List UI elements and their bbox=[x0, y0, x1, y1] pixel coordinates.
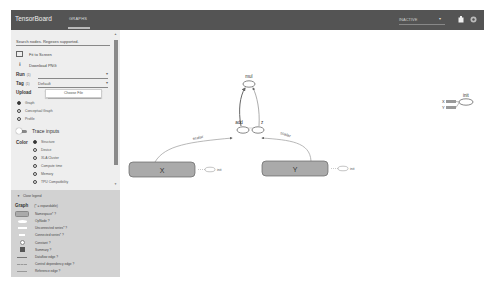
namespace-symbol-icon bbox=[15, 211, 29, 217]
edge-x-to-add bbox=[155, 138, 232, 162]
radio-unchecked-icon bbox=[17, 117, 21, 121]
legend-label: Unconnected series* ? bbox=[35, 226, 67, 230]
color-memory[interactable]: Memory bbox=[33, 172, 53, 176]
fit-to-screen-label: Fit to Screen bbox=[29, 52, 52, 57]
color-label: Color bbox=[16, 140, 28, 145]
dropdown-underline bbox=[399, 24, 445, 25]
chevron-down-icon: ▼ bbox=[17, 194, 20, 198]
download-icon: ⭳ bbox=[16, 61, 23, 69]
edge-z-to-mul bbox=[253, 88, 259, 126]
radio-unchecked-icon bbox=[33, 180, 37, 184]
radio-checked-icon bbox=[17, 101, 21, 105]
sidebar-scrollbar[interactable]: ▲ ▼ bbox=[114, 32, 118, 190]
color-tpu-compatibility[interactable]: TPU Compatibility bbox=[33, 180, 68, 184]
init-input-y-icon bbox=[446, 106, 456, 109]
radio-conceptual-graph[interactable]: Conceptual Graph bbox=[17, 109, 53, 113]
node-y-init-label: init bbox=[350, 167, 355, 171]
chevron-down-icon: ▾ bbox=[106, 81, 108, 85]
choose-file-button[interactable]: Choose File bbox=[45, 89, 102, 98]
color-xla-cluster[interactable]: XLA Cluster bbox=[33, 156, 59, 160]
trace-inputs-toggle[interactable] bbox=[16, 128, 27, 134]
active-tab-indicator bbox=[68, 27, 90, 29]
tab-graphs[interactable]: GRAPHS bbox=[69, 16, 87, 21]
legend-label: Connected series* ? bbox=[35, 233, 64, 237]
radio-label: TPU Compatibility bbox=[41, 180, 68, 184]
radio-label: Graph bbox=[25, 101, 34, 105]
node-x-init[interactable] bbox=[205, 167, 215, 172]
node-mul-label: mul bbox=[245, 74, 252, 79]
tensorboard-app: TensorBoard GRAPHS INACTIVE ▾ Search nod… bbox=[11, 10, 484, 277]
download-png-button[interactable]: ⭳ Download PNG bbox=[16, 61, 57, 69]
color-compute-time[interactable]: Compute time bbox=[33, 164, 62, 168]
close-legend-toggle[interactable]: ▼ Close legend bbox=[15, 194, 42, 198]
init-input-x-icon bbox=[446, 100, 456, 103]
graph-canvas[interactable]: scalar scalar mul add z X init Y init bbox=[120, 30, 484, 277]
chevron-down-icon: ▾ bbox=[106, 72, 108, 76]
node-mul[interactable] bbox=[243, 81, 255, 87]
summary-symbol-icon bbox=[15, 247, 29, 252]
scroll-thumb[interactable] bbox=[114, 40, 118, 165]
init-input-x-label: X bbox=[442, 99, 445, 104]
radio-unchecked-icon bbox=[17, 109, 21, 113]
run-label: Run bbox=[16, 72, 25, 77]
legend-item: Dataflow edge ? bbox=[15, 255, 58, 259]
radio-label: Conceptual Graph bbox=[25, 109, 53, 113]
legend-item: Unconnected series* ? bbox=[15, 226, 67, 230]
settings-icon[interactable] bbox=[470, 16, 477, 23]
run-count: (1) bbox=[27, 73, 31, 77]
legend-label: OpNode ? bbox=[35, 219, 50, 223]
node-init[interactable] bbox=[459, 99, 473, 105]
node-add[interactable] bbox=[237, 127, 249, 133]
reference-edge-symbol-icon bbox=[15, 271, 29, 272]
constant-symbol-icon bbox=[15, 240, 29, 245]
legend-label: Reference edge ? bbox=[35, 269, 60, 273]
legend-label: Dataflow edge ? bbox=[35, 255, 58, 259]
tag-label: Tag bbox=[16, 81, 24, 86]
download-png-label: Download PNG bbox=[29, 63, 57, 68]
control-edge-symbol-icon bbox=[15, 264, 29, 265]
tag-select[interactable]: Default ▾ bbox=[38, 81, 108, 88]
scroll-down-icon[interactable]: ▼ bbox=[114, 182, 117, 186]
init-input-edges bbox=[456, 102, 459, 108]
node-x-init-label: init bbox=[217, 168, 222, 172]
run-select[interactable]: ▾ bbox=[38, 72, 108, 79]
brand-title: TensorBoard bbox=[15, 15, 52, 22]
legend-item: Reference edge ? bbox=[15, 269, 60, 273]
chevron-down-icon: ▾ bbox=[439, 16, 441, 21]
color-structure[interactable]: Structure bbox=[33, 140, 55, 144]
node-x-label: X bbox=[160, 167, 165, 174]
reload-icon[interactable] bbox=[458, 16, 464, 23]
upload-label-row: Upload bbox=[16, 90, 31, 95]
legend-title-row: Graph (* = expandable) bbox=[15, 203, 58, 208]
fit-to-screen-button[interactable]: Fit to Screen bbox=[16, 51, 52, 57]
radio-label: XLA Cluster bbox=[41, 156, 59, 160]
legend-item: Summary ? bbox=[15, 247, 51, 252]
scroll-up-icon[interactable]: ▲ bbox=[114, 32, 117, 36]
legend-item: Constant ? bbox=[15, 240, 50, 245]
node-init-label: init bbox=[463, 93, 470, 98]
node-y-init[interactable] bbox=[338, 166, 348, 171]
run-label-row: Run (1) bbox=[16, 72, 31, 77]
tag-label-row: Tag (1) bbox=[16, 81, 30, 86]
tag-count: (1) bbox=[26, 82, 30, 86]
radio-graph[interactable]: Graph bbox=[17, 101, 34, 105]
node-z-label: z bbox=[261, 120, 264, 125]
legend-toggle-label: Close legend bbox=[23, 194, 42, 198]
radio-unchecked-icon bbox=[33, 148, 37, 152]
op-node-symbol-icon bbox=[15, 220, 29, 223]
color-device[interactable]: Device bbox=[33, 148, 51, 152]
legend-label: Summary ? bbox=[35, 248, 51, 252]
node-z[interactable] bbox=[252, 127, 264, 133]
edge-y-to-z bbox=[262, 138, 311, 161]
legend-label: Control dependency edge ? bbox=[35, 262, 74, 266]
graph-svg[interactable]: scalar scalar mul add z X init Y init bbox=[120, 30, 484, 277]
inactive-plugins-dropdown[interactable]: INACTIVE bbox=[399, 17, 417, 22]
trace-inputs-label: Trace inputs bbox=[32, 128, 59, 134]
radio-profile[interactable]: Profile bbox=[17, 117, 35, 121]
sidebar: Search nodes. Regexes supported. Fit to … bbox=[11, 30, 120, 190]
legend-label: Namespace* ? bbox=[35, 212, 56, 216]
upload-label: Upload bbox=[16, 90, 31, 95]
legend-panel: ▼ Close legend Graph (* = expandable) Na… bbox=[11, 190, 120, 277]
dataflow-edge-symbol-icon bbox=[15, 257, 29, 258]
search-input[interactable]: Search nodes. Regexes supported. bbox=[16, 39, 79, 44]
